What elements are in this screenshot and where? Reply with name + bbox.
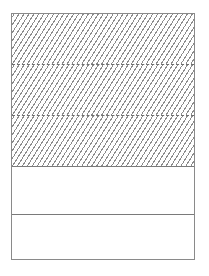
band-4-empty [12, 166, 194, 214]
band-5-empty [12, 214, 194, 259]
band-2-hatched [12, 64, 194, 115]
band-3-hatched [12, 115, 194, 166]
diagram-frame [11, 13, 195, 260]
band-1-hatched [12, 14, 194, 64]
